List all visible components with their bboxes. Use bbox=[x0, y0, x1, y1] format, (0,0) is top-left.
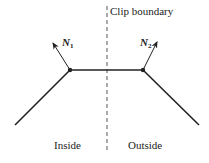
left-edge bbox=[15, 70, 70, 125]
normal-1-label: N1 bbox=[61, 36, 74, 50]
outside-label: Outside bbox=[128, 139, 162, 151]
right-edge bbox=[143, 70, 199, 125]
normal-2-label: N2 bbox=[139, 36, 152, 50]
inside-label: Inside bbox=[54, 139, 81, 151]
clip-boundary-diagram: N1 N2 Clip boundary Inside Outside bbox=[0, 0, 209, 163]
clip-boundary-label: Clip boundary bbox=[110, 5, 174, 17]
